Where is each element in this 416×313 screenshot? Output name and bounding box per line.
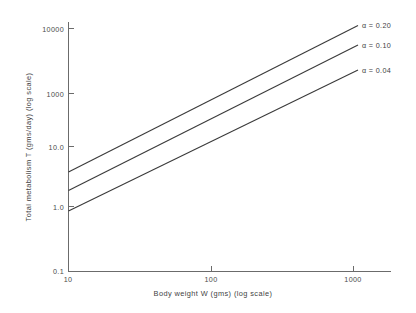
y-ticklabel-1000: 1000 <box>47 90 64 99</box>
x-ticklabel-1000: 1000 <box>344 275 361 284</box>
metabolism-chart-figure: 10000 1000 10.0 1.0 0.1 10 100 1000 Body… <box>0 0 416 313</box>
y-ticklabel-10000: 10000 <box>42 25 64 34</box>
y-axis-title: Total metabolism T (gms/day) (log scale) <box>24 73 33 222</box>
annotation-alpha-0-10: α = 0.10 <box>362 41 391 50</box>
chart-canvas: 10000 1000 10.0 1.0 0.1 10 100 1000 Body… <box>0 0 416 313</box>
x-ticklabel-100: 100 <box>204 275 217 284</box>
x-ticklabel-10: 10 <box>64 275 73 284</box>
y-ticklabel-1: 1.0 <box>53 203 64 212</box>
annotation-alpha-0-20: α = 0.20 <box>362 21 391 30</box>
y-ticklabel-10: 10.0 <box>49 143 64 152</box>
x-axis-title: Body weight W (gms) (log scale) <box>154 289 273 298</box>
series-annotations: α = 0.20 α = 0.10 α = 0.04 <box>362 21 391 75</box>
annotation-alpha-0-04: α = 0.04 <box>362 66 391 75</box>
y-ticklabel-0-1: 0.1 <box>53 267 64 276</box>
